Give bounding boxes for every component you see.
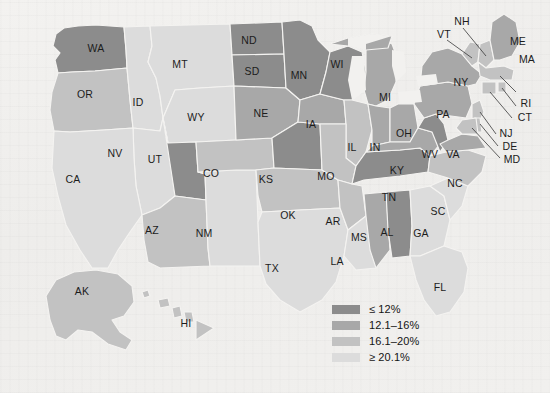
- state-label-MS: MS: [351, 231, 367, 243]
- figure-page: WA OR ID MT WY NV UT CA AZ NM CO ND SD N…: [0, 0, 550, 393]
- leader-line-NJ: [480, 112, 496, 134]
- state-label-MT: MT: [172, 58, 188, 70]
- map-legend: ≤ 12% 12.1–16% 16.1–20% ≥ 20.1%: [332, 301, 462, 365]
- state-label-VA: VA: [446, 148, 460, 160]
- legend-swatch-tier1: [332, 305, 360, 314]
- state-label-ND: ND: [241, 34, 257, 46]
- leader-line-CT: [490, 92, 512, 118]
- state-label-CO: CO: [203, 167, 219, 179]
- state-label-WY: WY: [187, 111, 204, 123]
- state-label-IA: IA: [306, 118, 316, 130]
- state-label-RI: RI: [521, 97, 532, 109]
- state-label-DE: DE: [503, 140, 518, 152]
- legend-label-tier2: 12.1–16%: [369, 319, 419, 331]
- state-label-AZ: AZ: [145, 224, 159, 236]
- state-label-KS: KS: [259, 173, 273, 185]
- state-label-LA: LA: [330, 255, 343, 267]
- state-shape-IN[interactable]: [368, 104, 390, 146]
- state-label-SD: SD: [245, 65, 260, 77]
- state-shape-CT[interactable]: [482, 82, 496, 94]
- legend-label-tier3: 16.1–20%: [369, 335, 419, 347]
- state-shape-MD[interactable]: [456, 118, 478, 134]
- state-label-PA: PA: [436, 108, 450, 120]
- legend-item-1[interactable]: 12.1–16%: [332, 317, 462, 333]
- state-shape-HI-1[interactable]: [142, 290, 150, 298]
- state-label-AK: AK: [75, 285, 89, 297]
- legend-item-0[interactable]: ≤ 12%: [332, 301, 462, 317]
- state-label-KY: KY: [390, 164, 404, 176]
- state-label-NE: NE: [254, 107, 269, 119]
- state-label-HI: HI: [181, 317, 192, 329]
- lake-erie-cutout: [398, 90, 422, 104]
- state-label-WA: WA: [88, 42, 105, 54]
- state-shape-HI-2[interactable]: [158, 298, 170, 308]
- us-choropleth-map: WA OR ID MT WY NV UT CA AZ NM CO ND SD N…: [0, 0, 550, 393]
- state-shape-HI-5[interactable]: [196, 320, 214, 340]
- legend-label-tier4: ≥ 20.1%: [369, 351, 410, 363]
- state-label-MA: MA: [519, 53, 535, 65]
- state-label-OH: OH: [396, 127, 412, 139]
- state-shape-OR[interactable]: [50, 68, 133, 132]
- state-label-OK: OK: [280, 209, 296, 221]
- legend-label-tier1: ≤ 12%: [369, 303, 401, 315]
- state-label-NH: NH: [454, 15, 470, 27]
- state-shape-RI[interactable]: [498, 82, 506, 92]
- legend-item-2[interactable]: 16.1–20%: [332, 333, 462, 349]
- state-label-CA: CA: [66, 173, 81, 185]
- state-label-TN: TN: [382, 191, 396, 203]
- state-label-MI: MI: [379, 91, 391, 103]
- state-label-VT: VT: [437, 28, 451, 40]
- state-label-MO: MO: [317, 170, 334, 182]
- state-label-AL: AL: [380, 226, 393, 238]
- state-label-ID: ID: [133, 96, 144, 108]
- state-label-AR: AR: [326, 215, 341, 227]
- state-label-MD: MD: [504, 153, 521, 165]
- state-label-NY: NY: [454, 76, 469, 88]
- state-label-WV: WV: [422, 149, 439, 160]
- state-label-CT: CT: [518, 111, 533, 123]
- leader-line-RI: [502, 88, 516, 106]
- state-label-IN: IN: [370, 141, 381, 153]
- state-label-OR: OR: [77, 88, 93, 100]
- legend-swatch-tier4: [332, 353, 360, 362]
- state-label-GA: GA: [413, 227, 429, 239]
- state-label-IL: IL: [347, 141, 356, 153]
- state-shape-ND[interactable]: [230, 22, 284, 55]
- legend-item-3[interactable]: ≥ 20.1%: [332, 349, 462, 365]
- state-label-NC: NC: [447, 177, 463, 189]
- state-label-FL: FL: [434, 281, 447, 293]
- lake-ontario-cutout: [416, 74, 438, 86]
- legend-swatch-tier3: [332, 337, 360, 346]
- state-shape-AK[interactable]: [46, 270, 134, 350]
- state-label-TX: TX: [265, 262, 279, 274]
- state-label-SC: SC: [431, 205, 446, 217]
- state-label-MN: MN: [291, 69, 308, 81]
- state-label-NV: NV: [108, 147, 123, 159]
- state-label-ME: ME: [510, 35, 526, 47]
- state-label-WI: WI: [330, 58, 343, 70]
- state-label-UT: UT: [148, 153, 163, 165]
- state-shape-CA[interactable]: [52, 128, 142, 268]
- state-label-NM: NM: [196, 227, 213, 239]
- legend-swatch-tier2: [332, 321, 360, 330]
- state-label-NJ: NJ: [499, 127, 512, 139]
